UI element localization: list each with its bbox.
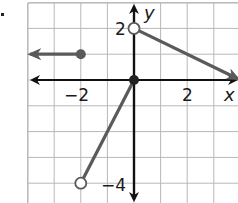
open-point: [75, 178, 86, 189]
list-bullet: [1, 13, 4, 16]
tick-label-x-neg2: −2: [64, 85, 89, 105]
tick-label-x-2: 2: [182, 85, 193, 105]
closed-point: [129, 75, 139, 85]
piece-3-right-ray: [134, 28, 238, 78]
closed-point: [76, 49, 86, 59]
tick-label-y-2: 2: [115, 19, 126, 39]
axes: [32, 6, 236, 200]
piecewise-function-graph: −2 2 2 −4 x y: [0, 0, 238, 203]
tick-label-y-neg4: −4: [101, 175, 126, 195]
x-axis-label: x: [223, 84, 235, 105]
y-axis-label: y: [143, 2, 155, 23]
open-point: [129, 23, 140, 34]
